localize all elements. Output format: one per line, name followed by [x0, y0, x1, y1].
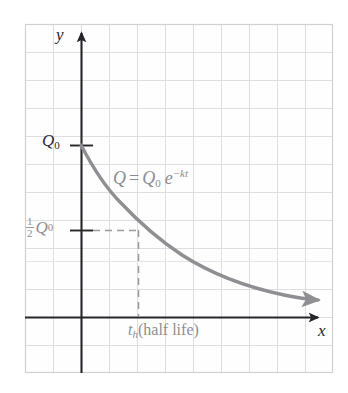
half-q0-tick-label: 1 2 Q0: [26, 216, 53, 239]
half-q0-subscript: 0: [48, 222, 54, 233]
equation-coefficient-subscript: 0: [155, 177, 161, 189]
x-axis-label: x: [318, 322, 326, 339]
half-life-annotation: th(half life): [128, 322, 199, 340]
q0-subscript: 0: [54, 139, 60, 151]
equation-coefficient-symbol: Q: [142, 168, 155, 188]
equation-base-symbol: e: [165, 168, 173, 188]
one-half-fraction: 1 2: [26, 216, 34, 239]
exponential-decay-figure: y x Q0 1 2 Q0 Q=Q0e−kt th(half life): [0, 0, 348, 393]
equation-exponent: −kt: [173, 167, 188, 179]
fraction-denominator: 2: [26, 227, 34, 239]
half-life-text: (half life): [138, 321, 199, 338]
half-q0-symbol: Q: [36, 219, 48, 236]
equation-equals-sign: =: [129, 168, 139, 188]
fraction-numerator: 1: [26, 216, 34, 227]
equation-lhs-symbol: Q: [113, 168, 126, 188]
y-axis-label: y: [56, 26, 64, 43]
equation-annotation: Q=Q0e−kt: [113, 168, 188, 189]
q0-tick-label: Q0: [42, 132, 60, 151]
q0-symbol: Q: [42, 131, 54, 150]
